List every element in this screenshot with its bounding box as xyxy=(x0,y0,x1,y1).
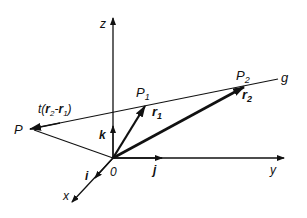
line-g-label: g xyxy=(281,70,289,85)
t-diff-label: t(r2-r1) xyxy=(38,102,72,118)
z-axis-label: z xyxy=(99,17,106,31)
r2-label: r2 xyxy=(242,87,252,104)
r2-vector xyxy=(113,87,244,158)
point-P-label: P xyxy=(14,122,23,137)
k-label: k xyxy=(99,128,107,142)
j-label: j xyxy=(151,163,157,177)
vector-line-diagram: z k y j x i 0 g P P1 P2 r1 r2 t(r2-r1) xyxy=(0,0,307,218)
r1-label: r1 xyxy=(152,104,162,121)
x-axis-label: x xyxy=(62,189,70,203)
origin-label: 0 xyxy=(110,165,117,179)
t-diff-vector xyxy=(30,123,60,129)
point-P1-label: P1 xyxy=(136,85,150,102)
point-P2-label: P2 xyxy=(236,68,250,85)
i-label: i xyxy=(85,169,89,183)
y-axis-label: y xyxy=(269,163,277,177)
